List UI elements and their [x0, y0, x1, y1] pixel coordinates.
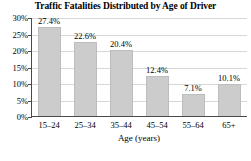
bar-chart: Traffic Fatalities Distributed by Age of… [0, 0, 251, 161]
y-axis-tick-label: 25% [12, 30, 28, 39]
y-axis-tick-label: 5% [17, 96, 28, 105]
y-axis-tick-label: 30% [12, 14, 28, 23]
bar[interactable] [218, 84, 241, 117]
x-axis-title: Age (years) [31, 133, 247, 144]
bar-slot: 20.4% [103, 18, 139, 117]
bar-value-label: 22.6% [74, 32, 96, 41]
x-axis-tick-labels: 15–2425–3435–4445–5455–6465+ [31, 120, 247, 130]
bar[interactable] [182, 94, 205, 117]
bar[interactable] [110, 50, 133, 117]
y-axis-tick [28, 35, 32, 36]
y-axis-tick-label: 0% [17, 113, 28, 122]
bar[interactable] [38, 27, 61, 117]
chart-title: Traffic Fatalities Distributed by Age of… [0, 0, 251, 12]
bar-series: 27.4%22.6%20.4%12.4%7.1%10.1% [31, 18, 247, 117]
x-axis-tick-label: 25–34 [67, 120, 103, 130]
bar-value-label: 12.4% [146, 66, 168, 75]
y-axis-tick-label: 10% [12, 80, 28, 89]
y-axis-tick [28, 101, 32, 102]
y-axis-tick [28, 117, 32, 118]
bar[interactable] [74, 42, 97, 117]
y-axis-tick-label: 20% [12, 47, 28, 56]
bar-slot: 12.4% [139, 18, 175, 117]
y-axis-tick [28, 68, 32, 69]
bar-slot: 10.1% [211, 18, 247, 117]
y-axis-tick-label: 15% [12, 63, 28, 72]
bar-value-label: 10.1% [218, 74, 240, 83]
x-axis-tick-label: 65+ [211, 120, 247, 130]
bar[interactable] [146, 76, 169, 117]
bar-value-label: 27.4% [38, 17, 60, 26]
x-axis-tick-label: 15–24 [31, 120, 67, 130]
bar-value-label: 20.4% [110, 40, 132, 49]
x-axis-tick-label: 45–54 [139, 120, 175, 130]
bar-slot: 22.6% [67, 18, 103, 117]
y-axis-tick-labels: 0%5%10%15%20%25%30% [0, 18, 28, 117]
y-axis-tick [28, 51, 32, 52]
x-axis-tick-label: 55–64 [175, 120, 211, 130]
bar-slot: 7.1% [175, 18, 211, 117]
x-axis-line [31, 116, 247, 117]
plot-area: 27.4%22.6%20.4%12.4%7.1%10.1% [31, 18, 247, 117]
y-axis-tick [28, 18, 32, 19]
y-axis-tick [28, 84, 32, 85]
bar-value-label: 7.1% [184, 84, 202, 93]
x-axis-tick-label: 35–44 [103, 120, 139, 130]
bar-slot: 27.4% [31, 18, 67, 117]
